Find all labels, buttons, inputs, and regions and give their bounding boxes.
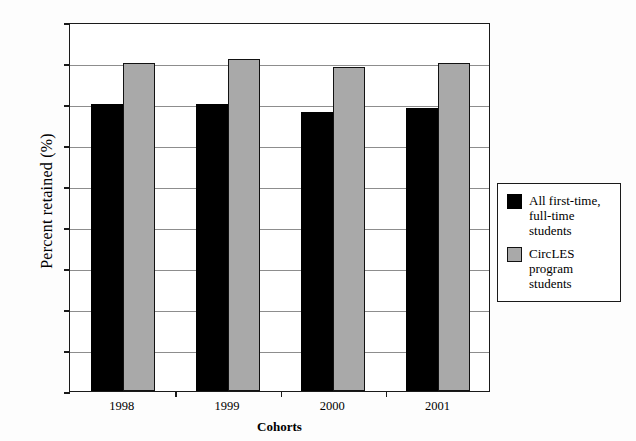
legend-item-all-students: All first-time, full-time students bbox=[507, 193, 612, 238]
x-tick-mark bbox=[175, 391, 177, 397]
bar bbox=[333, 67, 365, 391]
y-tick-mark bbox=[64, 105, 70, 107]
bar bbox=[406, 108, 438, 391]
bar bbox=[301, 112, 333, 391]
x-tick-label: 1998 bbox=[82, 399, 162, 414]
x-tick-label: 1999 bbox=[187, 399, 267, 414]
bar bbox=[196, 104, 228, 391]
plot-area: 0102030405060708090 bbox=[69, 23, 490, 392]
y-tick-mark bbox=[64, 269, 70, 271]
y-tick-mark bbox=[64, 351, 70, 353]
y-tick-mark bbox=[64, 187, 70, 189]
bar bbox=[228, 59, 260, 391]
x-axis-title: Cohorts bbox=[69, 419, 490, 435]
y-tick-mark bbox=[64, 64, 70, 66]
legend-label-line-1: CircLES program bbox=[529, 246, 575, 276]
y-axis-title: Percent retained (%) bbox=[38, 76, 56, 326]
bar bbox=[123, 63, 155, 391]
bar bbox=[91, 104, 123, 391]
legend-label-line-2: students bbox=[529, 276, 572, 291]
legend-label-line-1: All first-time, bbox=[529, 193, 601, 208]
x-tick-label: 2000 bbox=[292, 399, 372, 414]
legend-label-all-students: All first-time, full-time students bbox=[529, 193, 612, 238]
chart-legend: All first-time, full-time students CircL… bbox=[497, 183, 621, 302]
bar-chart-figure: Percent retained (%) 0102030405060708090… bbox=[0, 0, 636, 441]
x-tick-mark bbox=[281, 391, 283, 397]
y-tick-mark bbox=[64, 392, 70, 394]
y-tick-mark bbox=[64, 228, 70, 230]
legend-swatch-black-icon bbox=[507, 194, 522, 209]
x-tick-mark bbox=[386, 391, 388, 397]
y-tick-mark bbox=[64, 146, 70, 148]
x-tick-label: 2001 bbox=[397, 399, 477, 414]
y-tick-mark bbox=[64, 310, 70, 312]
legend-label-circles-students: CircLES program students bbox=[529, 246, 612, 291]
legend-swatch-gray-icon bbox=[507, 247, 522, 262]
legend-item-circles-students: CircLES program students bbox=[507, 246, 612, 291]
legend-label-line-2: full-time students bbox=[529, 208, 575, 238]
bar bbox=[438, 63, 470, 391]
y-tick-mark bbox=[64, 23, 70, 25]
